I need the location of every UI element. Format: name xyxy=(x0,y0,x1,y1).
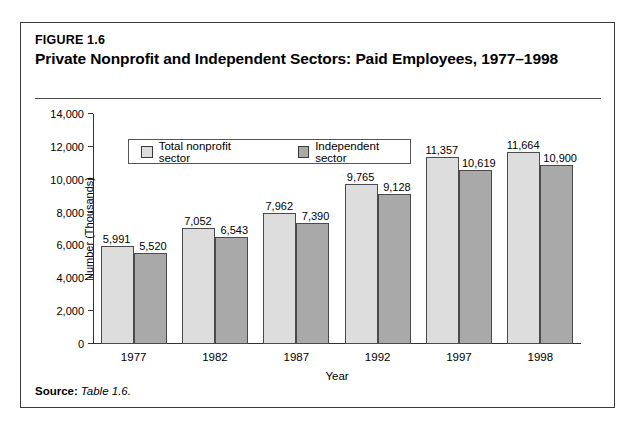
x-axis-tick-label: 1998 xyxy=(528,351,554,363)
bar-independent[interactable]: 10,619 xyxy=(459,170,492,344)
bar-value-label: 9,128 xyxy=(383,181,411,193)
legend-item-total-nonprofit: Total nonprofit sector xyxy=(141,140,262,164)
bar-value-label: 7,052 xyxy=(184,215,212,227)
figure-title: Private Nonprofit and Independent Sector… xyxy=(35,49,595,68)
figure-frame: FIGURE 1.6 Private Nonprofit and Indepen… xyxy=(20,22,615,408)
bar-independent[interactable]: 7,390 xyxy=(296,223,329,344)
bar-total-nonprofit[interactable]: 11,664 xyxy=(507,152,540,344)
y-axis-tick-label: 0 xyxy=(78,338,84,350)
bar-value-label: 10,619 xyxy=(462,157,496,169)
bar-total-nonprofit[interactable]: 7,962 xyxy=(263,213,296,344)
bar-value-label: 5,520 xyxy=(139,240,167,252)
chart-legend: Total nonprofit sector Independent secto… xyxy=(128,139,411,164)
bar-independent[interactable]: 6,543 xyxy=(215,237,248,344)
header-divider xyxy=(35,98,601,99)
bar-independent[interactable]: 10,900 xyxy=(540,165,573,344)
y-axis-tick-label: 4,000 xyxy=(56,272,84,284)
bar-value-label: 6,543 xyxy=(220,224,248,236)
y-axis-tick-label: 10,000 xyxy=(50,174,84,186)
bar-total-nonprofit[interactable]: 11,357 xyxy=(426,157,459,344)
legend-label-independent: Independent sector xyxy=(315,140,410,164)
legend-item-independent: Independent sector xyxy=(298,140,411,164)
legend-swatch-total-nonprofit xyxy=(141,146,153,158)
bar-independent[interactable]: 5,520 xyxy=(134,253,167,344)
y-axis-tick-label: 6,000 xyxy=(56,239,84,251)
legend-label-total-nonprofit: Total nonprofit sector xyxy=(159,140,262,164)
bar-value-label: 11,357 xyxy=(425,144,458,156)
bar-total-nonprofit[interactable]: 7,052 xyxy=(182,228,215,344)
y-axis-tick-label: 2,000 xyxy=(56,305,84,317)
bar-value-label: 10,900 xyxy=(543,152,577,164)
bar-group: 11,35710,6191997 xyxy=(418,114,499,344)
bar-value-label: 7,390 xyxy=(302,210,330,222)
x-axis-tick-label: 1982 xyxy=(202,351,228,363)
figure-number: FIGURE 1.6 xyxy=(35,33,105,47)
bar-total-nonprofit[interactable]: 9,765 xyxy=(345,184,378,344)
x-axis-tick-label: 1997 xyxy=(446,351,472,363)
bar-group: 11,66410,9001998 xyxy=(500,114,581,344)
bar-value-label: 9,765 xyxy=(347,171,375,183)
x-axis-tick-label: 1987 xyxy=(284,351,310,363)
bar-value-label: 5,991 xyxy=(103,233,131,245)
x-axis-title: Year xyxy=(93,370,581,382)
bar-value-label: 11,664 xyxy=(507,139,540,151)
bar-total-nonprofit[interactable]: 5,991 xyxy=(101,246,134,344)
x-axis-tick-label: 1992 xyxy=(365,351,391,363)
legend-swatch-independent xyxy=(298,146,310,158)
source-label: Source: xyxy=(35,385,78,397)
chart-plot-area: Number (Thousands) 02,0004,0006,0008,000… xyxy=(93,114,581,344)
source-note: Source:Table 1.6. xyxy=(35,385,131,397)
figure-page: FIGURE 1.6 Private Nonprofit and Indepen… xyxy=(0,0,638,433)
y-axis-tick-label: 14,000 xyxy=(50,108,84,120)
source-value: Table 1.6. xyxy=(81,385,131,397)
bar-independent[interactable]: 9,128 xyxy=(378,194,411,344)
y-axis-tick-label: 12,000 xyxy=(50,141,84,153)
y-axis-tick-label: 8,000 xyxy=(56,207,84,219)
bar-value-label: 7,962 xyxy=(265,200,293,212)
x-axis-tick-label: 1977 xyxy=(121,351,147,363)
